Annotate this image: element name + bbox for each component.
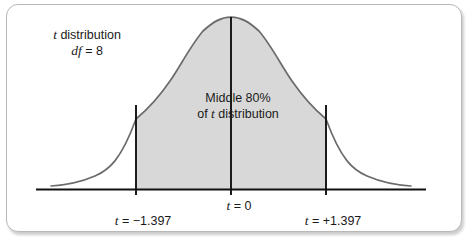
caption-df-line: df = 8 [29, 43, 145, 59]
tick-label-upper-bound: t = +1.397 [275, 213, 391, 229]
region-label-line2: of t distribution [170, 106, 306, 122]
shaded-region-annotation: Middle 80% of t distribution [170, 91, 306, 122]
tick-label-lower-bound: t = −1.397 [85, 213, 201, 229]
left-label-value: = −1.397 [118, 214, 171, 228]
region-label-prefix: of [197, 107, 211, 121]
caption-df-value: = 8 [82, 44, 103, 58]
tick-label-center: t = 0 [193, 198, 285, 214]
region-label-line1: Middle 80% [205, 91, 270, 105]
caption-df-symbol: df [71, 43, 82, 58]
caption-title-text: distribution [57, 28, 121, 42]
center-label-value: = 0 [230, 199, 251, 213]
distribution-caption: t distribution df = 8 [29, 27, 145, 59]
right-label-value: = +1.397 [308, 214, 361, 228]
figure-frame: t distribution df = 8 Middle 80% of t di… [6, 4, 462, 232]
region-label-suffix: distribution [215, 107, 279, 121]
